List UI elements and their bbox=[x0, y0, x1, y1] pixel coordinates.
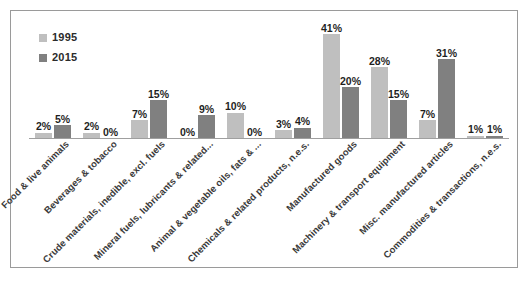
bar-1995[interactable] bbox=[467, 136, 484, 139]
bar-value-label: 9% bbox=[199, 104, 214, 115]
bar-2015[interactable] bbox=[342, 87, 359, 138]
bar-value-label: 3% bbox=[276, 119, 291, 130]
bar-value-label: 15% bbox=[388, 89, 409, 100]
bar-group: 0%9% bbox=[173, 15, 221, 138]
bar-group: 10%0% bbox=[221, 15, 269, 138]
bar-1995[interactable] bbox=[83, 133, 100, 138]
legend-swatch-icon bbox=[39, 54, 47, 62]
bar-slot: 3% bbox=[275, 15, 292, 138]
bar-slot: 15% bbox=[150, 15, 167, 138]
bar-2015[interactable] bbox=[294, 128, 311, 138]
chart-frame: 2%5%2%0%7%15%0%9%10%0%3%4%41%20%28%15%7%… bbox=[10, 10, 518, 268]
bar-value-label: 2% bbox=[84, 121, 99, 132]
bar-slot: 7% bbox=[419, 15, 436, 138]
bar-group: 1%1% bbox=[461, 15, 509, 138]
bar-1995[interactable] bbox=[275, 130, 292, 138]
legend-item-1995[interactable]: 1995 bbox=[39, 29, 77, 46]
bar-2015[interactable] bbox=[438, 59, 455, 138]
bar-slot: 10% bbox=[227, 15, 244, 138]
bar-slot: 0% bbox=[246, 15, 263, 138]
bar-slot: 41% bbox=[323, 15, 340, 138]
bar-value-label: 10% bbox=[225, 101, 246, 112]
bar-slot: 9% bbox=[198, 15, 215, 138]
bar-1995[interactable] bbox=[419, 120, 436, 138]
bar-slot: 2% bbox=[83, 15, 100, 138]
bar-slot: 1% bbox=[486, 15, 503, 138]
bar-value-label: 0% bbox=[103, 127, 118, 138]
bar-value-label: 7% bbox=[420, 109, 435, 120]
legend-item-2015[interactable]: 2015 bbox=[39, 49, 77, 66]
chart-legend: 19952015 bbox=[39, 29, 77, 69]
bar-slot: 1% bbox=[467, 15, 484, 138]
bar-1995[interactable] bbox=[227, 113, 244, 138]
bar-value-label: 4% bbox=[295, 116, 310, 127]
bar-slot: 7% bbox=[131, 15, 148, 138]
bar-value-label: 1% bbox=[468, 124, 483, 135]
bar-group: 2%0% bbox=[77, 15, 125, 138]
category-label: Misc. manufactured articles bbox=[357, 139, 455, 237]
legend-swatch-icon bbox=[39, 34, 47, 42]
bar-slot: 0% bbox=[102, 15, 119, 138]
bar-group: 41%20% bbox=[317, 15, 365, 138]
bar-value-label: 0% bbox=[247, 127, 262, 138]
bar-2015[interactable] bbox=[390, 100, 407, 138]
plot-area: 2%5%2%0%7%15%0%9%10%0%3%4%41%20%28%15%7%… bbox=[11, 11, 519, 269]
bar-value-label: 41% bbox=[321, 23, 342, 34]
category-axis-labels: Food & live animalsBeverages & tobaccoCr… bbox=[29, 139, 509, 257]
bar-1995[interactable] bbox=[323, 34, 340, 138]
bar-value-label: 1% bbox=[487, 124, 502, 135]
bar-1995[interactable] bbox=[131, 120, 148, 138]
bar-value-label: 2% bbox=[36, 121, 51, 132]
bar-value-label: 5% bbox=[55, 114, 70, 125]
figure-caption bbox=[68, 272, 498, 283]
bar-1995[interactable] bbox=[35, 133, 52, 138]
bar-groups: 2%5%2%0%7%15%0%9%10%0%3%4%41%20%28%15%7%… bbox=[29, 15, 509, 138]
bar-2015[interactable] bbox=[198, 115, 215, 138]
bar-2015[interactable] bbox=[150, 100, 167, 138]
bar-value-label: 20% bbox=[340, 76, 361, 87]
bar-value-label: 7% bbox=[132, 109, 147, 120]
bar-1995[interactable] bbox=[371, 67, 388, 138]
bar-value-label: 15% bbox=[148, 89, 169, 100]
legend-item-label: 1995 bbox=[52, 32, 77, 43]
bar-slot: 28% bbox=[371, 15, 388, 138]
bar-value-label: 28% bbox=[369, 56, 390, 67]
bar-slot: 4% bbox=[294, 15, 311, 138]
bar-group: 28%15% bbox=[365, 15, 413, 138]
bar-group: 3%4% bbox=[269, 15, 317, 138]
bar-slot: 20% bbox=[342, 15, 359, 138]
bar-slot: 31% bbox=[438, 15, 455, 138]
bar-slot: 15% bbox=[390, 15, 407, 138]
bar-value-label: 0% bbox=[180, 127, 195, 138]
legend-item-label: 2015 bbox=[52, 52, 77, 63]
bar-2015[interactable] bbox=[54, 125, 71, 138]
bar-group: 7%15% bbox=[125, 15, 173, 138]
bar-group: 7%31% bbox=[413, 15, 461, 138]
bar-slot: 0% bbox=[179, 15, 196, 138]
bar-value-label: 31% bbox=[436, 48, 457, 59]
